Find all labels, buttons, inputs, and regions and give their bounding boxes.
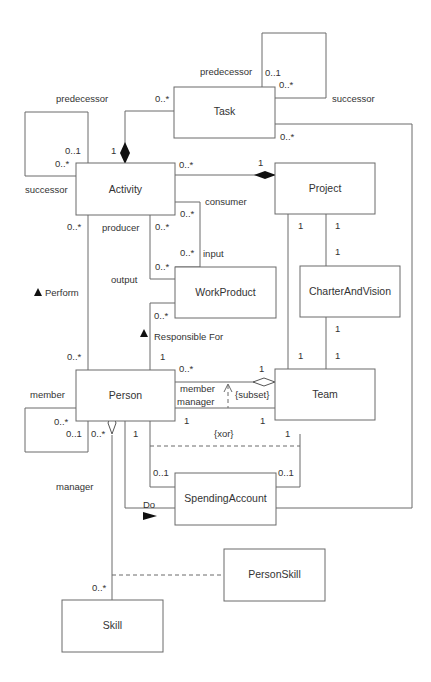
class-project[interactable]: Project: [275, 163, 375, 214]
class-spending-account[interactable]: SpendingAccount: [175, 473, 276, 525]
svg-text:PersonSkill: PersonSkill: [248, 568, 301, 580]
role-person-member: member: [30, 389, 65, 400]
mult-input-wp: 0..*: [180, 247, 195, 258]
association-do: Do: [143, 499, 155, 510]
perform-direction-arrow-icon: [34, 288, 42, 296]
svg-text:WorkProduct: WorkProduct: [195, 286, 256, 298]
mult-consumer-activity: 0..*: [180, 208, 195, 219]
composition-diamond-icon: [120, 142, 130, 164]
mult-person-self-top: 0..*: [54, 416, 69, 427]
association-responsible-for: Responsible For: [154, 331, 223, 342]
mult-activity-self-top: 0..1: [65, 145, 81, 156]
svg-text:Team: Team: [312, 388, 338, 400]
do-direction-arrow-icon: [143, 512, 157, 520]
mult-skill-person: 0..*: [92, 582, 107, 593]
mult-task-self-bottom: 0..*: [279, 79, 294, 90]
mult-task-do: 0..*: [280, 131, 295, 142]
svg-text:Task: Task: [214, 105, 236, 117]
mult-person-self-bottom: 0..1: [66, 428, 82, 439]
mult-person-perform: 0..*: [67, 351, 82, 362]
svg-text:SpendingAccount: SpendingAccount: [184, 492, 266, 504]
mult-producer-activity: 0..*: [155, 221, 170, 232]
mult-activity-self-bottom: 0..*: [55, 158, 70, 169]
role-team-member: member: [180, 383, 215, 394]
mult-task-activity-activity: 1: [111, 145, 116, 156]
svg-text:Project: Project: [309, 182, 342, 194]
role-activity-successor: successor: [25, 184, 68, 195]
mult-spending-person: 0..1: [153, 467, 169, 478]
responsible-for-direction-arrow-icon: [140, 329, 148, 337]
mult-team-member-team: 1: [259, 363, 264, 374]
mult-task-self-top: 0..1: [265, 67, 281, 78]
mult-team-project: 1: [298, 350, 303, 361]
role-producer: producer: [102, 222, 140, 233]
constraint-subset: {subset}: [235, 389, 269, 400]
mult-team-manager-person: 1: [184, 415, 189, 426]
mult-charter-team: 1: [335, 323, 340, 334]
class-activity[interactable]: Activity: [76, 163, 175, 215]
team-spending-association: [275, 434, 300, 487]
mult-wp-responsible: 0..*: [154, 310, 169, 321]
role-task-successor: successor: [332, 93, 375, 104]
class-work-product[interactable]: WorkProduct: [175, 267, 276, 318]
class-skill[interactable]: Skill: [62, 600, 163, 652]
class-team[interactable]: Team: [275, 369, 375, 420]
mult-person-responsible: 1: [160, 351, 165, 362]
role-person-manager: manager: [56, 481, 94, 492]
mult-team-spending: 1: [285, 428, 290, 439]
class-person[interactable]: Person: [76, 370, 175, 421]
mult-charter-project: 1: [335, 246, 340, 257]
mult-spending-team: 0..1: [278, 467, 294, 478]
mult-task-activity-task: 0..*: [155, 93, 170, 104]
role-input: input: [203, 248, 224, 259]
mult-project-team: 1: [298, 220, 303, 231]
mult-team-charter: 1: [335, 350, 340, 361]
mult-activity-perform: 0..*: [67, 221, 82, 232]
svg-text:CharterAndVision: CharterAndVision: [309, 285, 391, 297]
task-activity-composition: [125, 111, 174, 163]
mult-person-spending: 1: [133, 428, 138, 439]
constraint-xor: {xor}: [214, 428, 234, 439]
role-consumer: consumer: [205, 196, 247, 207]
class-charter-and-vision[interactable]: CharterAndVision: [300, 266, 400, 317]
mult-activity-project: 0..*: [179, 159, 194, 170]
mult-project-charter: 1: [335, 220, 340, 231]
role-team-manager: manager: [177, 396, 215, 407]
mult-output-wp: 0..*: [155, 261, 170, 272]
mult-team-member-person: 0..*: [179, 363, 194, 374]
mult-project-activity: 1: [258, 157, 263, 168]
svg-text:Person: Person: [109, 389, 142, 401]
role-activity-predecessor: predecessor: [56, 93, 108, 104]
svg-text:Activity: Activity: [109, 183, 143, 195]
svg-text:Skill: Skill: [103, 619, 122, 631]
role-output: output: [111, 274, 138, 285]
composition-diamond-icon: [254, 171, 276, 179]
association-perform: Perform: [45, 287, 79, 298]
class-person-skill[interactable]: PersonSkill: [224, 549, 325, 601]
aggregation-diamond-icon: [253, 378, 275, 386]
mult-team-manager-team: 1: [260, 415, 265, 426]
role-task-predecessor: predecessor: [200, 66, 252, 77]
mult-person-skill: 0..*: [91, 428, 106, 439]
uml-class-diagram: Task Activity Project WorkProduct Charte…: [0, 0, 431, 682]
class-task[interactable]: Task: [174, 87, 275, 138]
